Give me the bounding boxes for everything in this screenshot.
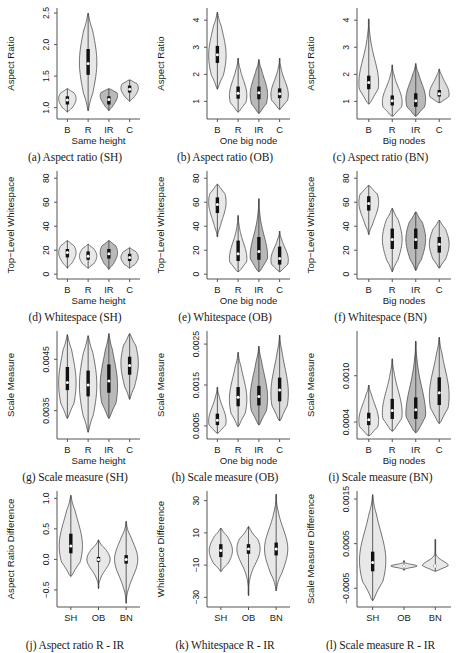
violin-C: C (121, 248, 138, 295)
y-tick-label: 0.0 (41, 553, 51, 565)
x-axis-title: One big node (220, 135, 278, 146)
violin-median-point (275, 548, 278, 551)
violin-median-point (367, 81, 370, 84)
x-tick-label: C (436, 124, 443, 135)
y-tick-label: 80 (41, 173, 51, 183)
panel-d: 020406080Top−Level WhitespaceBRIRCSame h… (0, 165, 150, 325)
violin-median-point (237, 92, 240, 95)
panel-e-plot: 020406080Top−Level WhitespaceBRIRCOne bi… (150, 165, 300, 325)
violin-R: R (382, 359, 402, 455)
panel-caption-l: (l) Scale measure R - IR (300, 639, 461, 651)
violin-C: C (271, 58, 288, 135)
panel-e: 020406080Top−Level WhitespaceBRIRCOne bi… (150, 165, 300, 325)
violin-R: R (79, 13, 96, 135)
violin-median-point (128, 256, 131, 259)
x-tick-label: C (276, 284, 283, 295)
violin-BN: BN (115, 522, 138, 623)
y-axis-title: Aspect Ratio (305, 36, 316, 90)
violin-IR: IR (406, 212, 426, 295)
x-tick-label: IR (411, 124, 421, 135)
x-tick-label: OB (242, 612, 256, 623)
x-tick-label: B (214, 284, 220, 295)
violin-OB: OB (87, 540, 110, 623)
violin-median-point (219, 549, 222, 552)
violin-R: R (229, 58, 246, 135)
y-axis-title: Aspect Ratio (155, 36, 166, 90)
y-tick-label: 3 (191, 45, 201, 50)
panel-c-plot: 1234Aspect RatioBRIRCBig nodes (300, 0, 461, 165)
panel-g: 0.00350.0045Scale MeasureBRIRCSame heigh… (0, 325, 150, 485)
y-tick-label: 1 (191, 99, 201, 104)
violin-median-point (278, 388, 281, 391)
panel-j-plot: −0.50.00.51.0Aspect Ratio DifferenceSHOB… (0, 485, 150, 653)
violin-R: R (229, 352, 246, 455)
violin-IR: IR (100, 241, 117, 295)
violin-median-point (107, 252, 110, 255)
violin-C: C (121, 80, 138, 135)
y-axis-title: Top−Level Whitespace (305, 177, 316, 274)
y-tick-label: 2.5 (41, 7, 51, 19)
y-tick-label: 10 (191, 528, 201, 538)
x-tick-label: B (366, 284, 372, 295)
x-tick-label: B (366, 124, 372, 135)
y-tick-label: 0.0015 (191, 372, 201, 399)
x-tick-label: IR (254, 284, 264, 295)
violin-R: R (382, 65, 402, 135)
y-axis-title: Whitespace Difference (155, 501, 166, 597)
x-tick-label: IR (104, 124, 114, 135)
y-tick-label: 0.0035 (41, 397, 51, 424)
y-tick-label: 60 (341, 197, 351, 207)
y-axis-title: Top−Level Whitespace (155, 177, 166, 274)
violin-median-point (87, 62, 90, 65)
violin-B: B (59, 335, 76, 455)
violin-median-point (257, 91, 260, 94)
panel-l: −0.00050.00050.0015Scale Measure Differe… (300, 485, 461, 653)
violin-median-point (87, 384, 90, 387)
violin-BN: BN (422, 539, 448, 623)
violin-median-point (66, 251, 69, 254)
x-axis-title: Big nodes (383, 295, 426, 306)
x-tick-label: B (64, 124, 70, 135)
panel-k: −30−101030Whitespace DifferenceSHOBBN(k)… (150, 485, 300, 653)
y-tick-label: 4 (191, 18, 201, 23)
y-tick-label: 1.5 (41, 70, 51, 82)
panel-caption-b: (b) Aspect ratio (OB) (150, 151, 300, 163)
violin-median-point (69, 544, 72, 547)
y-tick-label: 20 (341, 245, 351, 255)
violin-median-point (371, 561, 374, 564)
violin-median-point (216, 53, 219, 56)
violin-median-point (438, 243, 441, 246)
x-tick-label: C (276, 124, 283, 135)
y-axis-title: Top−Level Whitespace (5, 177, 16, 274)
y-tick-label: 0 (41, 272, 51, 277)
x-tick-label: C (126, 444, 133, 455)
violin-C: C (271, 335, 288, 455)
violin-B: B (59, 89, 76, 135)
violin-R: R (229, 215, 246, 295)
x-tick-label: BN (120, 612, 133, 623)
x-tick-label: IR (104, 444, 114, 455)
violin-B: B (359, 385, 379, 455)
x-tick-label: B (64, 284, 70, 295)
panel-b: 1234Aspect RatioBRIRCOne big node(b) Asp… (150, 0, 300, 165)
violin-SH: SH (360, 495, 386, 623)
y-tick-label: 0.0045 (41, 346, 51, 373)
violin-median-point (367, 418, 370, 421)
x-tick-label: R (235, 124, 242, 135)
violin-B: B (209, 184, 226, 295)
violin-IR: IR (100, 89, 117, 135)
x-tick-label: BN (270, 612, 283, 623)
x-tick-label: B (366, 444, 372, 455)
violin-C: C (429, 69, 449, 135)
violin-median-point (97, 558, 100, 561)
y-axis-title: Scale Measure (305, 353, 316, 417)
panel-i: 0.00040.0010Scale MeasureBRIRCBig nodes(… (300, 325, 461, 485)
panel-a-plot: 1.01.52.02.5Aspect RatioBRIRCSame height (0, 0, 150, 165)
y-tick-label: 0.0004 (341, 409, 351, 436)
x-tick-label: SH (366, 612, 379, 623)
panel-a: 1.01.52.02.5Aspect RatioBRIRCSame height… (0, 0, 150, 165)
panel-h-plot: 0.00050.00150.0025Scale MeasureBRIRCOne … (150, 325, 300, 485)
y-tick-label: 2.0 (41, 38, 51, 50)
x-axis-title: Same height (72, 295, 126, 306)
violin-R: R (79, 244, 96, 295)
